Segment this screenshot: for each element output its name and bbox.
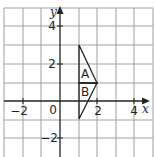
x-axis-label: x xyxy=(142,102,149,116)
y-tick-label: 2 xyxy=(48,57,56,71)
y-tick-label: −2 xyxy=(40,131,58,145)
x-tick-label: −2 xyxy=(10,104,28,118)
triangle-a-label: A xyxy=(81,67,90,81)
y-axis-label: y xyxy=(49,5,57,19)
x-tick-label: 2 xyxy=(94,104,102,118)
y-axis-arrow-icon xyxy=(57,6,64,14)
origin-label: 0 xyxy=(49,103,57,117)
x-tick-label: 4 xyxy=(130,104,138,118)
y-tick-label: 4 xyxy=(48,19,56,33)
triangle-b-label: B xyxy=(81,85,89,99)
coordinate-grid: y x −2 0 2 4 4 2 −2 A B xyxy=(0,0,155,157)
